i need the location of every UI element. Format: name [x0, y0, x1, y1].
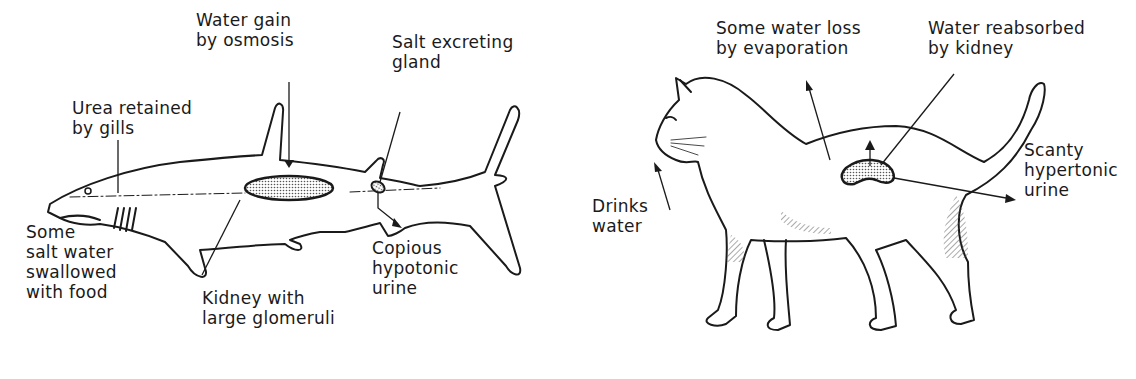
label-kidney: Kidney with large glomeruli	[202, 288, 335, 328]
label-salt-water: Some salt water swallowed with food	[26, 222, 117, 302]
label-urine: Copious hypotonic urine	[372, 238, 459, 298]
label-water-gain: Water gain by osmosis	[196, 10, 294, 50]
label-drinks: Drinks water	[592, 196, 648, 236]
label-urine-cat: Scanty hypertonic urine	[1024, 140, 1118, 200]
cat-diagram: Some water loss by evaporation Water rea…	[576, 0, 1136, 379]
label-salt-gland: Salt excreting gland	[392, 32, 514, 72]
shark-kidney-shape	[245, 176, 333, 200]
label-reabsorbed: Water reabsorbed by kidney	[928, 18, 1085, 58]
shark-diagram: Water gain by osmosis Salt excreting gla…	[0, 0, 560, 379]
label-evaporation: Some water loss by evaporation	[716, 18, 861, 58]
label-urea: Urea retained by gills	[72, 98, 192, 138]
cat-kidney-shape	[842, 160, 894, 184]
